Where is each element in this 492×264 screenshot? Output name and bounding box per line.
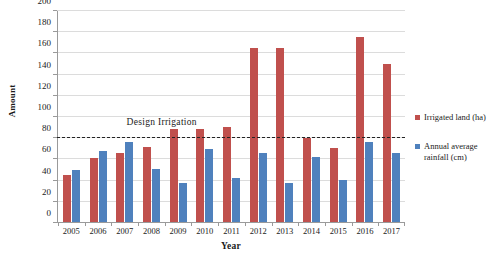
y-tick-mark [53, 95, 57, 96]
bar-2009-series-1[interactable] [179, 183, 187, 222]
y-tick-label: 100 [38, 102, 52, 112]
y-tick-label: 120 [38, 81, 52, 91]
x-tick-label-2005: 2005 [58, 226, 85, 236]
legend-label-series-1: Annual average rainfall (cm) [424, 141, 490, 163]
legend-swatch-icon-series-0 [415, 115, 420, 120]
y-tick-mark [53, 180, 57, 181]
design-irrigation-label: Design Irrigation [127, 117, 197, 127]
bar-2012-series-0[interactable] [250, 48, 258, 222]
x-tick-label-2006: 2006 [85, 226, 112, 236]
bar-2008-series-1[interactable] [152, 169, 160, 222]
x-tick-label-2007: 2007 [111, 226, 138, 236]
bar-2017-series-1[interactable] [392, 153, 400, 222]
y-tick-mark [53, 222, 57, 223]
design-irrigation-threshold-line [57, 137, 405, 138]
bar-group [352, 11, 379, 222]
bar-2017-series-0[interactable] [383, 64, 391, 222]
x-tick-label-2008: 2008 [138, 226, 165, 236]
chart-legend: Irrigated land (ha) Annual average rainf… [415, 112, 490, 181]
x-tick-label-2011: 2011 [218, 226, 245, 236]
y-tick-mark [53, 158, 57, 159]
x-tick-label-2013: 2013 [272, 226, 299, 236]
y-tick-mark [53, 201, 57, 202]
bar-2007-series-0[interactable] [116, 153, 124, 222]
plot-area: 020406080100120140160180200 Design Irrig… [57, 11, 405, 223]
bar-2016-series-0[interactable] [356, 37, 364, 222]
bar-2008-series-0[interactable] [143, 147, 151, 222]
y-tick-label: 140 [38, 60, 52, 70]
bar-group [218, 11, 245, 222]
legend-item-annual-rainfall: Annual average rainfall (cm) [415, 141, 490, 163]
bar-group [272, 11, 299, 222]
bar-group [325, 11, 352, 222]
y-tick-mark [53, 74, 57, 75]
x-tick-label-2009: 2009 [165, 226, 192, 236]
bar-2016-series-1[interactable] [365, 142, 373, 222]
y-tick-label: 40 [42, 166, 51, 176]
x-tick-label-2010: 2010 [191, 226, 218, 236]
x-tick-label-2017: 2017 [378, 226, 405, 236]
y-tick-label: 80 [42, 123, 51, 133]
bar-group [58, 11, 85, 222]
bar-2012-series-1[interactable] [259, 153, 267, 222]
bar-2014-series-1[interactable] [312, 157, 320, 222]
legend-item-irrigated-land: Irrigated land (ha) [415, 112, 490, 123]
bar-2007-series-1[interactable] [125, 142, 133, 222]
x-tick-label-2015: 2015 [325, 226, 352, 236]
bar-2014-series-0[interactable] [303, 138, 311, 222]
bar-2006-series-1[interactable] [99, 151, 107, 222]
x-axis-line [57, 222, 405, 223]
y-tick-mark [53, 31, 57, 32]
bar-2013-series-0[interactable] [276, 48, 284, 222]
chart-container: Amount 020406080100120140160180200 Desig… [0, 0, 492, 264]
bar-2005-series-0[interactable] [63, 175, 71, 222]
plot-wrapper: 020406080100120140160180200 Design Irrig… [57, 11, 405, 223]
x-axis-title: Year [57, 241, 405, 251]
y-tick-label: 60 [42, 144, 51, 154]
bar-2013-series-1[interactable] [285, 183, 293, 222]
y-tick-mark [53, 10, 57, 11]
bar-group [298, 11, 325, 222]
legend-label-series-0: Irrigated land (ha) [424, 112, 486, 123]
x-tick-label-2014: 2014 [298, 226, 325, 236]
y-tick-label: 0 [47, 208, 52, 218]
x-tick-labels-group: 2005200620072008200920102011201220132014… [58, 226, 405, 236]
bar-group [245, 11, 272, 222]
y-tick-label: 20 [42, 187, 51, 197]
bar-group [85, 11, 112, 222]
bar-2011-series-1[interactable] [232, 178, 240, 222]
x-tick-label-2012: 2012 [245, 226, 272, 236]
y-tick-label: 160 [38, 38, 52, 48]
bar-2006-series-0[interactable] [90, 158, 98, 222]
x-tick-label-2016: 2016 [352, 226, 379, 236]
bar-groups [58, 11, 405, 222]
bar-2011-series-0[interactable] [223, 127, 231, 222]
bar-2015-series-1[interactable] [339, 180, 347, 222]
bar-2010-series-1[interactable] [205, 149, 213, 222]
y-tick-label: 200 [38, 0, 52, 6]
legend-swatch-icon-series-1 [415, 144, 420, 149]
bar-2015-series-0[interactable] [330, 148, 338, 222]
bar-group [378, 11, 405, 222]
bar-2010-series-0[interactable] [196, 129, 204, 222]
bar-2009-series-0[interactable] [170, 129, 178, 222]
y-tick-mark [53, 116, 57, 117]
y-axis-title: Amount [7, 66, 17, 136]
y-tick-label: 180 [38, 17, 52, 27]
y-tick-mark [53, 52, 57, 53]
bar-2005-series-1[interactable] [72, 170, 80, 222]
